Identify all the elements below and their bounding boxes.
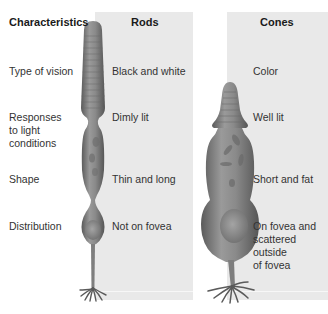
label-shape: Shape <box>9 173 39 186</box>
label-responses-line2: to light <box>9 124 40 137</box>
cones-shape: Short and fat <box>253 173 313 186</box>
header-rods: Rods <box>131 16 159 29</box>
cones-distribution-line2: scattered <box>253 233 296 246</box>
label-distribution: Distribution <box>9 220 62 233</box>
label-type-of-vision: Type of vision <box>9 65 73 78</box>
cone-cell-icon <box>201 82 259 303</box>
rods-distribution: Not on fovea <box>112 220 172 233</box>
cones-type-of-vision: Color <box>253 65 278 78</box>
header-characteristics: Characteristics <box>9 16 89 29</box>
label-responses-line3: conditions <box>9 137 56 150</box>
cones-distribution-line3: outside <box>253 246 287 259</box>
rod-cell-icon <box>80 21 106 301</box>
cones-distribution-line4: of fovea <box>253 259 290 272</box>
cones-responses: Well lit <box>253 111 284 124</box>
rods-shape: Thin and long <box>112 173 176 186</box>
rods-responses: Dimly lit <box>112 111 149 124</box>
header-cones: Cones <box>260 16 294 29</box>
cones-distribution-line1: On fovea and <box>253 220 316 233</box>
rods-type-of-vision: Black and white <box>112 65 186 78</box>
label-responses-line1: Responses <box>9 111 62 124</box>
